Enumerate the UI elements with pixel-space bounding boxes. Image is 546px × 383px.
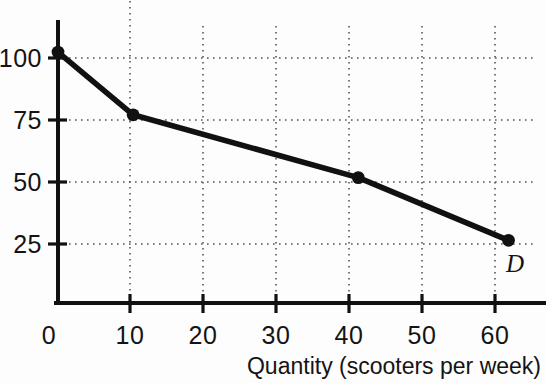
- xtick-label-50: 50: [408, 321, 437, 349]
- xtick-label-10: 10: [116, 321, 145, 349]
- xtick-label-40: 40: [335, 321, 364, 349]
- xtick-label-20: 20: [189, 321, 218, 349]
- xtick-label-30: 30: [262, 321, 291, 349]
- ytick-label-50: 50: [13, 168, 42, 196]
- demand-curve-chart: 100 75 50 25 0 10 20 30 40 50 60 D Quant…: [0, 0, 546, 383]
- quantity-axis-title: Quantity (scooters per week): [247, 353, 541, 379]
- data-point-40-50: [352, 171, 365, 184]
- xtick-label-60: 60: [481, 321, 510, 349]
- data-point-60-25: [502, 234, 515, 247]
- chart-canvas: 100 75 50 25 0 10 20 30 40 50 60 D Quant…: [0, 0, 546, 383]
- ytick-label-100: 100: [0, 44, 42, 72]
- data-point-10-75: [127, 108, 140, 121]
- ytick-label-75: 75: [13, 106, 42, 134]
- ytick-label-25: 25: [13, 230, 42, 258]
- xtick-label-0: 0: [42, 321, 56, 349]
- demand-curve-label: D: [505, 250, 524, 277]
- data-point-0-100: [52, 46, 65, 59]
